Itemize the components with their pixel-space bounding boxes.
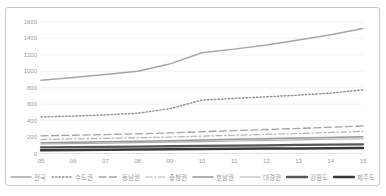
legend-marker-5 xyxy=(239,173,261,181)
legend-label-7: 제주도 xyxy=(357,172,375,182)
y-tick-label: 600 xyxy=(27,101,38,107)
series-line-0 xyxy=(41,29,363,81)
series-line-7 xyxy=(41,148,363,150)
legend-label-1: 수도권 xyxy=(75,172,93,182)
x-tick-label: 05 xyxy=(38,158,45,164)
legend-marker-7 xyxy=(333,173,355,181)
x-tick-label: 09 xyxy=(166,158,173,164)
legend-item-5: 대경권 xyxy=(239,172,281,182)
y-tick-label: 1600 xyxy=(24,19,38,25)
legend-label-6: 강원도 xyxy=(310,172,328,182)
x-tick-label: 10 xyxy=(199,158,206,164)
legend-label-0: 전국 xyxy=(34,172,46,182)
legend-item-6: 강원도 xyxy=(286,172,328,182)
x-tick-label: 06 xyxy=(70,158,77,164)
x-tick-label: 13 xyxy=(295,158,302,164)
legend-item-3: 충청권 xyxy=(145,172,187,182)
chart-frame: 0200400600800100012001400160005060708091… xyxy=(5,7,380,186)
legend-label-3: 충청권 xyxy=(169,172,187,182)
legend-label-4: 호남권 xyxy=(216,172,234,182)
x-tick-label: 08 xyxy=(134,158,141,164)
legend-marker-1 xyxy=(51,173,73,181)
legend-item-0: 전국 xyxy=(10,172,46,182)
y-tick-label: 1200 xyxy=(24,52,38,58)
series-line-6 xyxy=(41,144,363,147)
x-tick-label: 11 xyxy=(231,158,238,164)
legend-marker-6 xyxy=(286,173,308,181)
legend-marker-2 xyxy=(98,173,120,181)
y-tick-label: 1000 xyxy=(24,68,38,74)
legend-marker-0 xyxy=(10,173,32,181)
legend-label-5: 대경권 xyxy=(263,172,281,182)
y-tick-label: 200 xyxy=(27,134,38,140)
y-tick-label: 1400 xyxy=(24,35,38,41)
y-tick-label: 400 xyxy=(27,118,38,124)
legend-item-7: 제주도 xyxy=(333,172,375,182)
legend-item-2: 동남권 xyxy=(98,172,140,182)
x-tick-label: 12 xyxy=(263,158,270,164)
chart-legend: 전국수도권동남권충청권호남권대경권강원도제주도 xyxy=(6,170,379,184)
y-tick-label: 0 xyxy=(34,151,38,157)
x-tick-label: 14 xyxy=(327,158,334,164)
legend-item-1: 수도권 xyxy=(51,172,93,182)
line-chart: 0200400600800100012001400160005060708091… xyxy=(6,8,380,185)
x-tick-label: 07 xyxy=(102,158,109,164)
series-line-1 xyxy=(41,90,363,117)
legend-marker-4 xyxy=(192,173,214,181)
y-tick-label: 800 xyxy=(27,85,38,91)
legend-label-2: 동남권 xyxy=(122,172,140,182)
legend-item-4: 호남권 xyxy=(192,172,234,182)
x-tick-label: 15 xyxy=(360,158,367,164)
series-line-2 xyxy=(41,126,363,136)
legend-marker-3 xyxy=(145,173,167,181)
